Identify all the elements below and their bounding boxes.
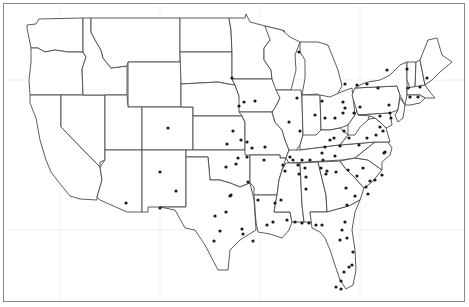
location-dot	[287, 120, 290, 123]
location-dot	[350, 263, 353, 266]
location-dot	[279, 198, 282, 201]
location-dot	[351, 250, 354, 253]
location-dot	[320, 99, 323, 102]
location-dot	[213, 214, 216, 217]
location-dot	[342, 270, 345, 273]
location-dot	[425, 76, 428, 79]
location-dot	[236, 156, 239, 159]
location-dot	[314, 223, 317, 226]
location-dot	[319, 166, 322, 169]
location-dot	[334, 285, 337, 288]
location-dot	[224, 210, 227, 213]
location-dot	[281, 163, 284, 166]
state-florida	[310, 200, 360, 289]
location-dot	[158, 170, 161, 173]
location-dot	[295, 96, 298, 99]
state-new-mexico	[142, 150, 186, 212]
location-dot	[291, 158, 294, 161]
location-dot	[323, 116, 326, 119]
location-dot	[378, 125, 381, 128]
location-dot	[296, 163, 299, 166]
state-vermont	[407, 62, 416, 88]
location-dot	[342, 129, 345, 132]
location-dot	[418, 85, 421, 88]
location-dot	[320, 151, 323, 154]
location-dot	[304, 175, 307, 178]
location-dot	[343, 220, 346, 223]
location-dot	[234, 162, 237, 165]
location-dot	[380, 173, 383, 176]
location-dot	[364, 185, 367, 188]
location-dot	[345, 236, 348, 239]
location-dot	[323, 145, 326, 148]
location-dot	[341, 100, 344, 103]
location-dot	[303, 166, 306, 169]
location-dot	[300, 221, 303, 224]
location-dot	[298, 129, 301, 132]
location-dot	[353, 194, 356, 197]
state-kansas	[193, 116, 245, 150]
location-dot	[283, 169, 286, 172]
location-dot	[347, 265, 350, 268]
location-dot	[346, 168, 349, 171]
location-dot	[263, 145, 266, 148]
location-dot	[365, 82, 368, 85]
location-dot	[321, 158, 324, 161]
location-dot	[313, 113, 316, 116]
location-dot	[365, 136, 368, 139]
state-oregon	[29, 48, 86, 95]
location-dot	[242, 100, 245, 103]
location-dot	[333, 154, 336, 157]
state-south-dakota	[180, 52, 235, 85]
location-dot	[338, 144, 341, 147]
location-dot	[300, 158, 303, 161]
location-dot	[339, 287, 342, 290]
location-dot	[358, 105, 361, 108]
state-north-dakota	[180, 18, 232, 52]
location-dot	[262, 158, 265, 161]
location-dot	[378, 114, 381, 117]
location-dot	[288, 155, 291, 158]
location-dot	[231, 129, 234, 132]
location-dot	[339, 279, 342, 282]
location-dot	[416, 95, 419, 98]
location-dot	[357, 143, 360, 146]
location-dot	[174, 189, 177, 192]
location-dot	[328, 138, 331, 141]
location-dot	[332, 136, 335, 139]
location-dot	[355, 83, 358, 86]
location-dot	[345, 203, 348, 206]
location-dot	[405, 67, 408, 70]
location-dot	[338, 238, 341, 241]
location-dot	[376, 86, 379, 89]
location-dot	[124, 201, 127, 204]
location-dot	[285, 218, 288, 221]
location-dot	[265, 223, 268, 226]
location-dot	[256, 198, 259, 201]
map-canvas	[0, 0, 469, 307]
location-dot	[251, 239, 254, 242]
state-boundaries	[27, 14, 452, 289]
location-dot	[361, 166, 364, 169]
location-dot	[224, 165, 227, 168]
location-dot	[225, 142, 228, 145]
location-dot	[368, 179, 371, 182]
location-dot	[334, 170, 337, 173]
location-dot	[343, 106, 346, 109]
location-dot	[166, 126, 169, 129]
location-dot	[344, 186, 347, 189]
location-dot	[308, 158, 311, 161]
location-dot	[158, 206, 161, 209]
state-washington	[27, 18, 83, 52]
location-dot	[373, 178, 376, 181]
state-michigan	[300, 42, 342, 98]
location-dot	[230, 76, 233, 79]
location-dot	[408, 95, 411, 98]
location-dot	[333, 116, 336, 119]
location-dot	[340, 228, 343, 231]
location-dot	[343, 82, 346, 85]
location-dot	[389, 116, 392, 119]
location-dot	[341, 111, 344, 114]
location-dot	[237, 104, 240, 107]
location-dot	[228, 194, 231, 197]
